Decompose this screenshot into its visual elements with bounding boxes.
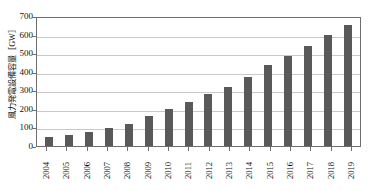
y-axis-tick-label: 600 [3,31,33,40]
x-axis-tick-mark [188,147,189,151]
bar-slot [159,18,179,146]
x-axis-tick-label-slot: 2011 [178,150,198,190]
bar [65,135,73,146]
x-axis-tick-label-slot: 2005 [56,150,76,190]
bar-slot [99,18,119,146]
bar-slot [119,18,139,146]
x-axis-tick-mark [270,147,271,151]
bar [165,109,173,146]
x-axis-tick-label: 2013 [224,162,233,179]
bar-series [37,18,360,146]
bar-slot [338,18,358,146]
bar [185,102,193,146]
x-axis-tick-label-slot: 2012 [199,150,219,190]
bar-slot [39,18,59,146]
bar-slot [218,18,238,146]
x-axis-tick-label: 2008 [123,162,132,179]
x-axis-tick-label: 2007 [103,162,112,179]
bar-slot [59,18,79,146]
x-axis-tick-mark [168,147,169,151]
x-axis-tick-mark [351,147,352,151]
bar [85,132,93,146]
y-axis-tick-label: 700 [3,12,33,21]
y-axis-tick-label: 100 [3,123,33,132]
x-axis-tick-label-slot: 2006 [77,150,97,190]
x-axis-tick-label: 2016 [285,162,294,179]
x-axis-tick-mark [249,147,250,151]
x-axis-tick-label: 2019 [346,162,355,179]
x-axis-tick-mark [107,147,108,151]
bar-slot [79,18,99,146]
y-axis-tick-mark [32,36,36,37]
x-axis-tick-label: 2015 [265,162,274,179]
x-axis-tick-label: 2018 [326,162,335,179]
x-axis-tick-label-slot: 2004 [36,150,56,190]
x-axis-tick-label: 2004 [42,162,51,179]
y-axis-tick-label: 200 [3,105,33,114]
x-axis-tick-label-slot: 2018 [321,150,341,190]
bar [244,77,252,146]
bar-slot [298,18,318,146]
y-axis-tick-label: 300 [3,86,33,95]
x-axis-tick-mark [127,147,128,151]
x-axis-tick-label: 2010 [164,162,173,179]
x-axis-tick-label-slot: 2007 [97,150,117,190]
bar [145,116,153,146]
bar-slot [318,18,338,146]
x-axis-tick-mark [290,147,291,151]
bar-chart: 風力発電設備容量［GW］ 0100200300400500600700 2004… [0,0,370,191]
x-axis-tick-mark [229,147,230,151]
x-axis-tick-mark [331,147,332,151]
bar [204,94,212,146]
bar [45,137,53,146]
x-axis-tick-label-slot: 2009 [138,150,158,190]
bar-slot [238,18,258,146]
y-axis-tick-labels: 0100200300400500600700 [0,0,33,191]
bar [304,46,312,146]
x-axis-tick-label-slot: 2015 [260,150,280,190]
y-axis-tick-mark [32,110,36,111]
y-axis-tick-mark [32,91,36,92]
y-axis-tick-label: 500 [3,49,33,58]
y-axis-tick-mark [32,147,36,148]
x-axis-tick-label-slot: 2010 [158,150,178,190]
x-axis-tick-mark [46,147,47,151]
y-axis-tick-label: 400 [3,68,33,77]
y-axis-tick-mark [32,128,36,129]
plot-area [36,17,361,147]
x-axis-tick-label: 2011 [184,162,193,179]
x-axis-tick-mark [310,147,311,151]
bar-slot [139,18,159,146]
bar [105,128,113,146]
x-axis-tick-label-slot: 2017 [300,150,320,190]
x-axis-tick-label-slot: 2016 [280,150,300,190]
x-axis-tick-label: 2012 [204,162,213,179]
bar [284,56,292,146]
x-axis-tick-mark [66,147,67,151]
x-axis-tick-label: 2009 [143,162,152,179]
x-axis-tick-labels: 2004200520062007200820092010201120122013… [36,147,361,191]
x-axis-tick-label: 2014 [245,162,254,179]
x-axis-tick-label-slot: 2014 [239,150,259,190]
y-axis-tick-label: 0 [3,142,33,151]
x-axis-tick-label-slot: 2019 [341,150,361,190]
x-axis-tick-label-slot: 2013 [219,150,239,190]
x-axis-tick-label: 2006 [82,162,91,179]
bar-slot [179,18,199,146]
bar [125,124,133,146]
x-axis-tick-label: 2005 [62,162,71,179]
x-axis-tick-mark [209,147,210,151]
x-axis-tick-label: 2017 [306,162,315,179]
bar [344,25,352,146]
bar [264,65,272,146]
x-axis-tick-mark [148,147,149,151]
bar-slot [258,18,278,146]
bar [324,35,332,146]
bar-slot [199,18,219,146]
x-axis-tick-label-slot: 2008 [117,150,137,190]
bar-slot [278,18,298,146]
x-axis-tick-mark [87,147,88,151]
y-axis-tick-mark [32,73,36,74]
bar [224,87,232,146]
y-axis-tick-mark [32,17,36,18]
